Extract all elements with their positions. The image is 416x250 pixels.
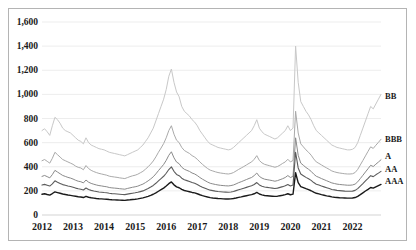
series-label-aa: AA [385,165,397,174]
y-tick-label: 1,000 [4,89,38,99]
series-label-bb: BB [385,92,396,101]
series-line-aaa [42,173,381,201]
y-tick-label: 1,200 [4,65,38,75]
series-label-bbb: BBB [385,135,402,144]
series-line-aa [42,152,381,194]
y-tick-label: 600 [4,138,38,148]
credit-spread-line-chart [9,9,406,240]
series-lines [42,46,381,200]
x-tick-label: 2022 [333,221,373,232]
gridlines [42,22,381,215]
chart-frame: 02004006008001,0001,2001,4001,600 201220… [8,8,407,241]
y-tick-label: 1,600 [4,17,38,27]
y-tick-label: 0 [4,210,38,220]
y-tick-label: 1,400 [4,41,38,51]
series-label-aaa: AAA [385,177,403,186]
y-tick-label: 800 [4,114,38,124]
series-label-a: A [385,152,391,161]
y-tick-label: 400 [4,162,38,172]
series-line-bb [42,46,381,156]
y-tick-label: 200 [4,186,38,196]
